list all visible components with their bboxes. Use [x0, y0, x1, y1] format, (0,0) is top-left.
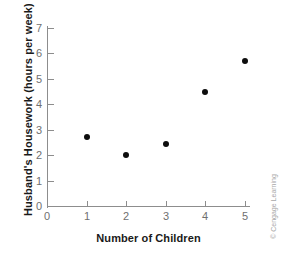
x-tick-mark — [245, 201, 246, 207]
scatter-plot-figure: 01234567 012345 Number of Children Husba… — [0, 0, 290, 266]
y-tick-mark — [48, 206, 54, 207]
data-point — [84, 134, 90, 140]
x-tick-label: 3 — [155, 211, 177, 222]
data-point — [242, 58, 248, 64]
x-tick-label: 4 — [194, 211, 216, 222]
x-axis-title: Number of Children — [47, 232, 250, 244]
x-axis-line — [47, 206, 250, 207]
data-point — [163, 141, 169, 147]
x-tick-label: 1 — [76, 211, 98, 222]
copyright-credit: © Cengage Learning — [270, 147, 277, 266]
data-point — [123, 152, 129, 158]
x-tick-label: 5 — [234, 211, 256, 222]
x-tick-label: 2 — [115, 211, 137, 222]
y-axis-title: Husband's Housework (hours per week) — [22, 16, 34, 216]
plot-area — [47, 28, 245, 206]
data-point — [202, 89, 208, 95]
x-tick-label: 0 — [36, 211, 58, 222]
